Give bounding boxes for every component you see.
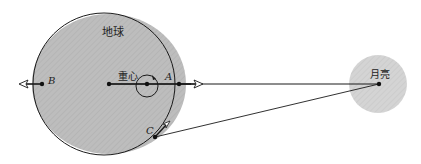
moon-center-dot <box>377 82 381 86</box>
point-b-label: B <box>47 75 55 86</box>
point-c-label: C <box>146 125 154 136</box>
barycenter-label: 重心 <box>118 70 138 82</box>
moon-label: 月亮 <box>370 68 390 80</box>
barycenter-dot <box>145 82 149 86</box>
c-to-moon-line <box>155 84 379 137</box>
point-a-dot <box>177 82 181 86</box>
earth-center-dot <box>107 82 111 86</box>
earth-moon-tide-diagram: 地球 月亮 重心 A B C <box>0 0 421 164</box>
point-a-label: A <box>164 71 172 82</box>
earth-label: 地球 <box>102 25 124 39</box>
point-b-dot <box>40 82 44 86</box>
